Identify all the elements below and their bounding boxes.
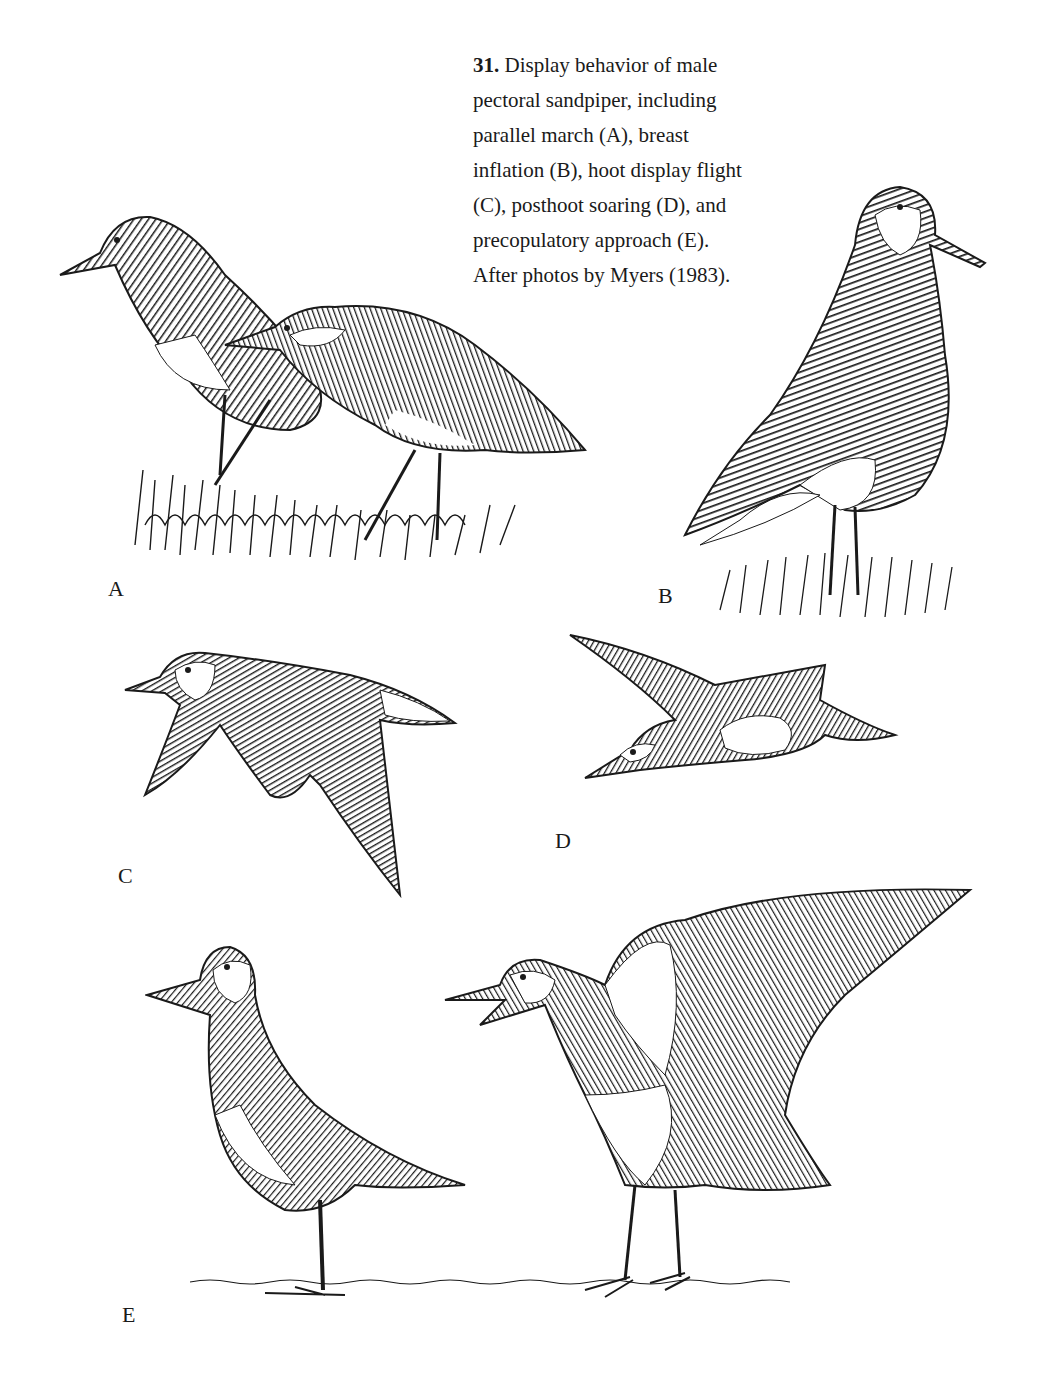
caption-line-2: pectoral sandpiper, including	[473, 83, 813, 118]
panel-e-illustration	[145, 885, 975, 1310]
panel-b-illustration	[680, 185, 1000, 625]
panel-c-illustration	[120, 645, 465, 905]
caption-line-1: 31. Display behavior of male	[473, 48, 813, 83]
panel-a-label: A	[108, 576, 124, 602]
caption-line-3: parallel march (A), breast	[473, 118, 813, 153]
panel-a-illustration	[55, 205, 595, 575]
figure-number: 31.	[473, 53, 499, 77]
caption-line-4: inflation (B), hoot display flight	[473, 153, 813, 188]
panel-c-label: C	[118, 863, 133, 889]
panel-d-label: D	[555, 828, 571, 854]
panel-b-label: B	[658, 583, 673, 609]
panel-e-label: E	[122, 1302, 135, 1328]
panel-d-illustration	[565, 630, 905, 780]
